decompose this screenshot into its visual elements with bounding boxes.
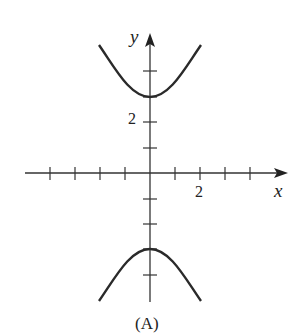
figure-caption: (A) xyxy=(135,314,159,334)
x-tick-label: 2 xyxy=(195,183,203,201)
y-axis-label: y xyxy=(130,26,138,48)
x-axis-label: x xyxy=(274,180,282,202)
y-tick-label: 2 xyxy=(128,110,136,128)
graph-canvas xyxy=(0,0,295,336)
